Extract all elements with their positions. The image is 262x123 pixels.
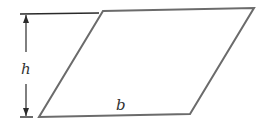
- base-label: b: [116, 96, 126, 114]
- arrowhead-up-icon: [23, 15, 29, 23]
- diagram-svg: h b: [0, 0, 262, 123]
- parallelogram-diagram: h b: [0, 0, 262, 123]
- arrowhead-down-icon: [23, 108, 29, 116]
- height-top-extension-line: [20, 13, 99, 14]
- parallelogram-shape: [39, 8, 254, 117]
- height-label: h: [21, 60, 31, 78]
